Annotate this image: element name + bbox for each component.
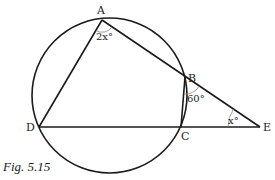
- label-A: A: [96, 4, 106, 17]
- label-C: C: [181, 130, 189, 143]
- figure-caption: Fig. 5.15: [2, 159, 51, 174]
- angle-label-E: x°: [228, 115, 239, 126]
- segment-AD: [39, 20, 102, 127]
- label-E: E: [263, 121, 271, 134]
- angle-label-B: 60°: [187, 93, 205, 104]
- label-B: B: [188, 72, 196, 85]
- label-D: D: [26, 121, 35, 134]
- angle-label-A: 2x°: [96, 31, 113, 42]
- geometry-figure: A B C D E 2x° 60° x° Fig. 5.15: [0, 0, 275, 180]
- segment-AE: [102, 20, 260, 127]
